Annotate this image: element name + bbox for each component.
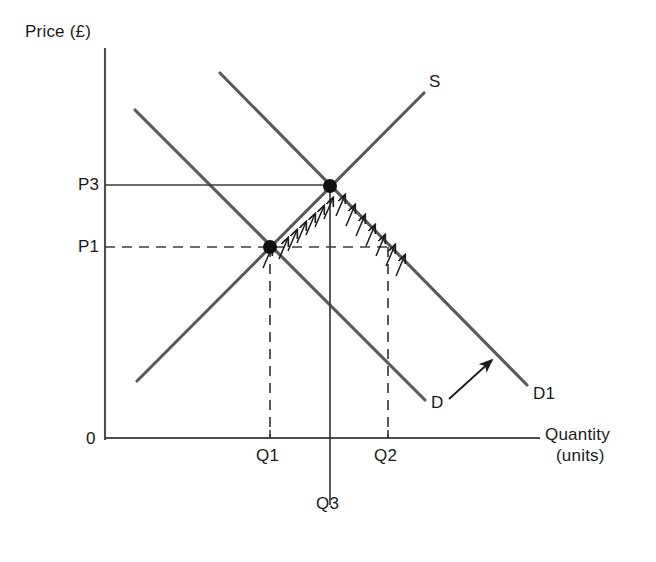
demand-shifted-curve-label: D1 xyxy=(533,384,555,404)
quantity-tick-q1: Q1 xyxy=(256,446,279,466)
price-tick-p1: P1 xyxy=(78,237,99,257)
supply-demand-diagram: Price (£) Quantity (units) 0 P3 P1 Q1 Q2… xyxy=(0,0,656,562)
origin-label: 0 xyxy=(86,429,96,449)
x-axis-title-line2: (units) xyxy=(556,446,605,466)
quantity-tick-q2: Q2 xyxy=(374,446,397,466)
axes-group xyxy=(104,48,540,440)
hatch-marks-demand-shifted xyxy=(336,195,405,276)
price-tick-p3: P3 xyxy=(78,175,99,195)
y-axis-title: Price (£) xyxy=(25,22,91,42)
equilibrium-dot-p3q3 xyxy=(323,179,337,193)
demand-shift-arrow xyxy=(449,360,492,399)
demand-curve-label: D xyxy=(431,393,443,413)
supply-curve-label: S xyxy=(429,72,441,92)
chart-canvas xyxy=(0,0,656,562)
equilibrium-dot-p1q1 xyxy=(263,240,277,254)
x-axis-title-line1: Quantity xyxy=(545,425,610,445)
hatch-marks-demand xyxy=(263,198,333,268)
quantity-tick-q3: Q3 xyxy=(316,494,339,514)
